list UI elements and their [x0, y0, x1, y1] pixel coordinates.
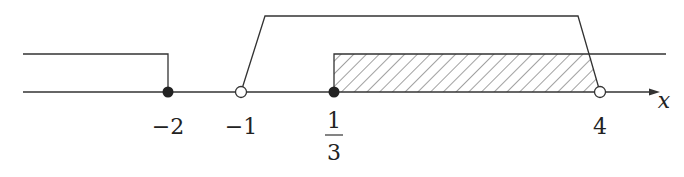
- fraction-denominator: 3: [327, 140, 341, 165]
- solution-hatched-region: [334, 54, 604, 92]
- label-minus-2: −2: [152, 114, 184, 139]
- point-minus-1-open: [236, 87, 247, 98]
- number-line-diagram: −2 −1 1 3 4 x: [0, 0, 684, 177]
- fraction-numerator: 1: [327, 108, 341, 133]
- point-one-third-filled: [329, 87, 340, 98]
- label-4: 4: [593, 114, 607, 139]
- label-one-third: 1 3: [325, 108, 343, 165]
- point-minus-2-filled: [163, 87, 174, 98]
- axis-label-x: x: [658, 88, 671, 113]
- point-4-open: [595, 87, 606, 98]
- region-left-bracket: [23, 54, 168, 92]
- label-minus-1: −1: [225, 114, 257, 139]
